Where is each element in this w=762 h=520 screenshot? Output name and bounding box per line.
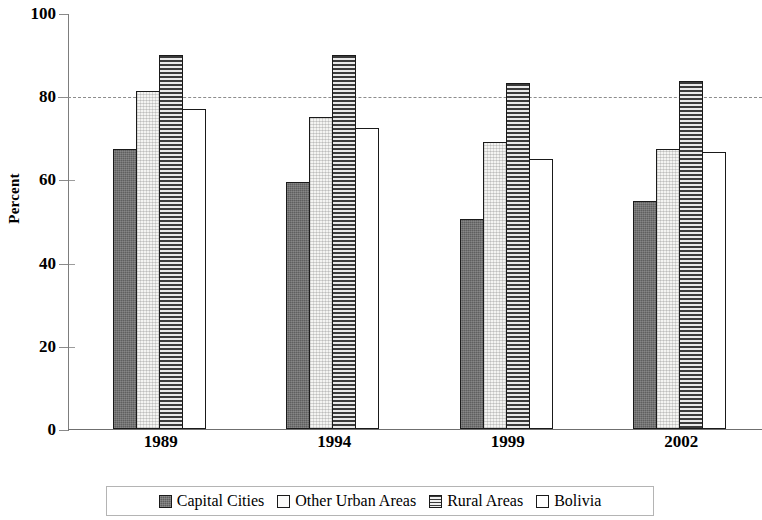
y-axis-tick-inner: [69, 347, 75, 348]
y-axis-tick: [59, 180, 68, 181]
legend-item-rural-areas: Rural Areas: [429, 492, 523, 510]
bar-capital-cities-1994: [286, 182, 310, 429]
legend-label: Bolivia: [554, 492, 601, 510]
bar-capital-cities-1989: [113, 149, 137, 429]
legend-item-bolivia: Bolivia: [536, 492, 601, 510]
chart-legend: Capital CitiesOther Urban AreasRural Are…: [106, 486, 654, 516]
bar-group-2002: [633, 13, 729, 429]
x-axis-label-1994: 1994: [264, 432, 404, 452]
legend-item-capital-cities: Capital Cities: [159, 492, 265, 510]
bar-chart: Percent 020406080100 1989199419992002 Ca…: [0, 0, 762, 520]
y-axis-tick-inner: [69, 180, 75, 181]
y-axis-tick: [59, 264, 68, 265]
y-axis-label: 0: [10, 421, 56, 438]
y-axis-tick-inner: [69, 264, 75, 265]
x-axis-line: [68, 429, 762, 430]
bars: [460, 13, 556, 429]
legend-label: Other Urban Areas: [295, 492, 416, 510]
bar-other-urban-areas-2002: [656, 149, 680, 429]
y-axis-tick: [59, 14, 68, 15]
x-axis-label-2002: 2002: [611, 432, 751, 452]
y-axis-tick: [59, 347, 68, 348]
bar-other-urban-areas-1999: [483, 142, 507, 429]
legend-swatch-icon: [429, 495, 442, 508]
legend-label: Capital Cities: [177, 492, 265, 510]
bar-other-urban-areas-1989: [136, 91, 160, 429]
y-axis-label: 60: [10, 171, 56, 188]
x-axis-label-1989: 1989: [91, 432, 231, 452]
bar-bolivia-1989: [182, 109, 206, 429]
bar-rural-areas-1999: [506, 83, 530, 429]
legend-swatch-icon: [159, 495, 172, 508]
y-axis-line: [68, 14, 69, 431]
bars: [286, 13, 382, 429]
x-axis-label-1999: 1999: [438, 432, 578, 452]
bar-group-1989: [113, 13, 209, 429]
bar-rural-areas-1989: [159, 55, 183, 429]
y-axis-label: 100: [10, 5, 56, 22]
bar-capital-cities-2002: [633, 201, 657, 429]
plot-area: [68, 14, 762, 430]
y-axis-label: 80: [10, 88, 56, 105]
bar-bolivia-2002: [702, 152, 726, 429]
bar-other-urban-areas-1994: [309, 117, 333, 429]
legend-swatch-icon: [536, 495, 549, 508]
bars: [113, 13, 209, 429]
bar-bolivia-1999: [529, 159, 553, 429]
legend-swatch-icon: [277, 495, 290, 508]
y-axis-label: 20: [10, 338, 56, 355]
y-axis-tick: [59, 430, 68, 431]
bar-rural-areas-2002: [679, 81, 703, 429]
bars: [633, 13, 729, 429]
bar-rural-areas-1994: [332, 55, 356, 429]
y-axis-label: 40: [10, 255, 56, 272]
legend-label: Rural Areas: [447, 492, 523, 510]
bar-capital-cities-1999: [460, 219, 484, 429]
bar-bolivia-1994: [355, 128, 379, 429]
bar-group-1994: [286, 13, 382, 429]
legend-item-other-urban-areas: Other Urban Areas: [277, 492, 416, 510]
bar-group-1999: [460, 13, 556, 429]
